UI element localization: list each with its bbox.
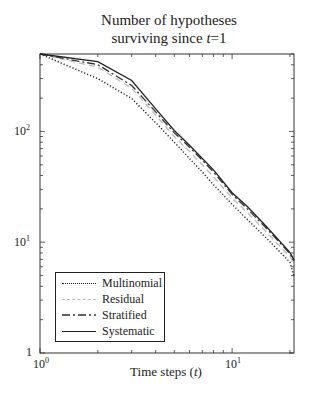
- legend-item-residual: Residual: [56, 291, 166, 307]
- legend-item-systematic: Systematic: [56, 323, 166, 339]
- ytick-1: 1: [26, 345, 32, 360]
- series-residual: [40, 54, 294, 264]
- xtick-1: 100: [33, 356, 49, 372]
- dashdot-line-icon: [62, 313, 96, 317]
- ytick-10: 101: [14, 234, 30, 250]
- legend: Multinomial Residual Stratified Systemat…: [55, 272, 165, 342]
- series-systematic: [40, 54, 294, 260]
- series-multinomial: [40, 54, 294, 277]
- dashed-line-icon: [62, 299, 96, 300]
- solid-line-icon: [62, 331, 96, 332]
- legend-item-stratified: Stratified: [56, 307, 166, 323]
- dotted-line-icon: [62, 283, 96, 284]
- x-axis-label: Time steps (t): [66, 364, 266, 380]
- legend-item-multinomial: Multinomial: [56, 275, 166, 291]
- ytick-100: 102: [14, 123, 30, 139]
- series-stratified: [40, 54, 294, 261]
